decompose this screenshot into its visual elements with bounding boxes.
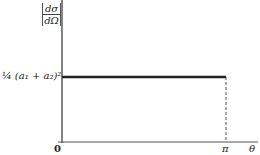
y-label-denominator: dΩ: [43, 15, 60, 26]
y-tick-label: ¼ (a₁ + a₂)²: [2, 70, 61, 81]
y-axis-label: dσ dΩ: [42, 3, 61, 26]
x-axis-label: θ: [249, 143, 255, 154]
x-tick-pi: π: [222, 143, 229, 154]
x-tick-zero: 0: [54, 143, 61, 154]
y-label-numerator: dσ: [43, 3, 60, 15]
